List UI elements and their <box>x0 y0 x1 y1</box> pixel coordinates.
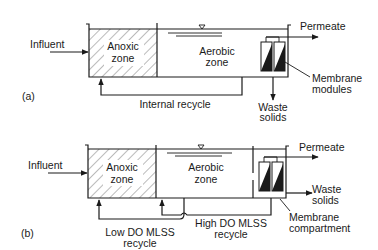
permeate-label-b: Permeate <box>299 141 345 153</box>
svg-text:compartment: compartment <box>289 222 350 234</box>
internal-recycle-label: Internal recycle <box>139 98 210 110</box>
svg-text:zone: zone <box>111 173 134 185</box>
membrane-module-icon <box>261 37 285 71</box>
influent-label-a: Influent <box>30 38 65 50</box>
membrane-module-icon <box>259 157 283 191</box>
svg-text:solids: solids <box>260 111 287 123</box>
svg-text:zone: zone <box>195 173 218 185</box>
water-level-triangle-icon <box>167 145 232 156</box>
aerobic-label-b: Aerobic <box>188 161 224 173</box>
mbr-process-diagram: Permeate Influent Anoxic zone Aerobic zo… <box>0 0 378 250</box>
panel-b: Permeate Influent Anoxic zone Aerobic zo… <box>21 141 350 249</box>
panel-label-b: (b) <box>21 227 34 239</box>
svg-text:modules: modules <box>312 83 352 95</box>
svg-text:recycle: recycle <box>214 228 247 240</box>
svg-text:solids: solids <box>312 194 339 206</box>
internal-recycle-line-a <box>101 77 242 95</box>
influent-label-b: Influent <box>28 159 63 171</box>
water-level-triangle-icon <box>168 25 222 36</box>
panel-label-a: (a) <box>22 90 35 102</box>
svg-text:recycle: recycle <box>123 237 156 249</box>
anoxic-label-b: Anoxic <box>106 161 138 173</box>
permeate-label-a: Permeate <box>300 20 346 32</box>
anoxic-label-a: Anoxic <box>107 40 139 52</box>
svg-text:zone: zone <box>112 52 135 64</box>
panel-a: Permeate Influent Anoxic zone Aerobic zo… <box>22 20 362 123</box>
svg-text:zone: zone <box>206 56 229 68</box>
high-do-recycle-line <box>162 198 271 215</box>
low-do-recycle-line <box>99 198 184 219</box>
